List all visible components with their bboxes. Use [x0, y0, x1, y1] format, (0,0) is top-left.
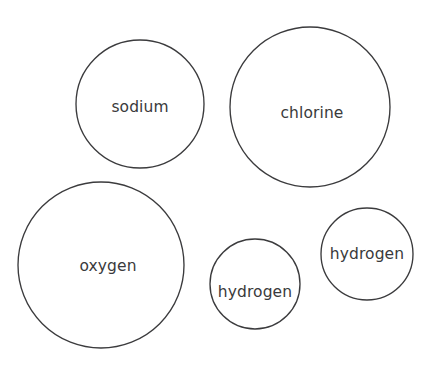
atom-chlorine[interactable]: chlorine — [230, 27, 390, 187]
hydrogen-right-label: hydrogen — [330, 245, 404, 263]
atom-diagram: sodium chlorine oxygen hydrogen hydrogen — [0, 0, 431, 370]
sodium-label: sodium — [111, 98, 168, 116]
chlorine-label: chlorine — [281, 104, 344, 122]
atom-sodium[interactable]: sodium — [76, 40, 204, 168]
atom-hydrogen-lower[interactable]: hydrogen — [210, 239, 300, 329]
atom-hydrogen-right[interactable]: hydrogen — [321, 208, 413, 300]
oxygen-label: oxygen — [79, 257, 136, 275]
hydrogen-lower-label: hydrogen — [218, 283, 292, 301]
diagram-canvas: sodium chlorine oxygen hydrogen hydrogen — [0, 0, 431, 370]
atom-oxygen[interactable]: oxygen — [18, 182, 184, 348]
